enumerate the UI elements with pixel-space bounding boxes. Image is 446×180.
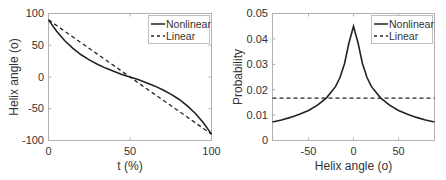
legend-label-nonlinear: Nonlinear	[389, 18, 434, 30]
y-tick-label: 100	[26, 7, 44, 19]
x-axis-label: t (%)	[117, 159, 142, 173]
y-tick-label: 0	[262, 134, 268, 146]
y-tick-label: 0.05	[247, 7, 268, 19]
probability-vs-helix-angle-chart: 0.05 0.04 0.03 0.02 0.01 0 -50 0 50 Heli…	[223, 0, 446, 180]
y-tick-label: -50	[28, 102, 44, 114]
legend-label-linear: Linear	[166, 30, 196, 42]
legend: Nonlinear Linear	[149, 16, 212, 44]
y-tick-label: -100	[22, 134, 44, 146]
probability-vs-helix-angle-svg: 0.05 0.04 0.03 0.02 0.01 0 -50 0 50 Heli…	[223, 0, 446, 180]
x-tick-label: 50	[124, 145, 136, 157]
x-tick-label: 0	[350, 145, 356, 157]
helix-angle-vs-t-svg: 100 50 0 -50 -100 0 50 100 t (%) Helix a…	[0, 0, 223, 180]
y-tick-label: 0.04	[247, 33, 268, 45]
x-tick-label: 100	[202, 145, 220, 157]
y-tick-label: 0.03	[247, 58, 268, 70]
y-tick-label: 0.02	[247, 84, 268, 96]
y-tick-label: 0	[38, 71, 44, 83]
y-tick-label: 50	[32, 39, 44, 51]
helix-angle-vs-t-chart: 100 50 0 -50 -100 0 50 100 t (%) Helix a…	[0, 0, 223, 180]
legend-label-linear: Linear	[389, 30, 419, 42]
legend: Nonlinear Linear	[372, 16, 435, 44]
x-tick-label: 50	[392, 145, 404, 157]
x-axis-label: Helix angle (o)	[315, 159, 392, 173]
x-tick-label: 0	[45, 145, 51, 157]
legend-label-nonlinear: Nonlinear	[166, 18, 211, 30]
y-tick-label: 0.01	[247, 109, 268, 121]
y-axis-label: Probability	[231, 49, 245, 105]
x-tick-label: -50	[301, 145, 317, 157]
y-axis-label: Helix angle (o)	[7, 38, 21, 115]
